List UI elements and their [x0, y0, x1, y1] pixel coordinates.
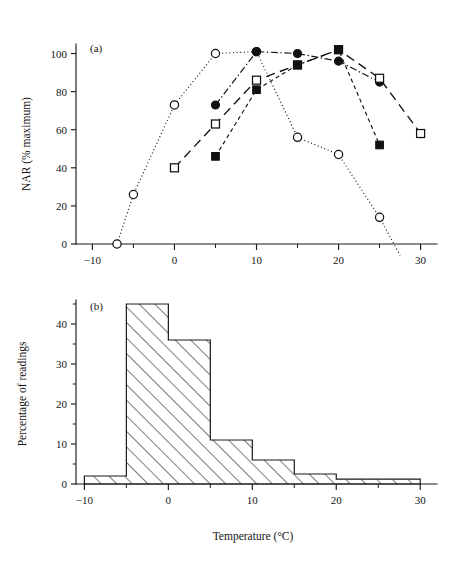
panel-a-x-tick-label: 30: [415, 254, 427, 266]
panel-a-label: (a): [90, 42, 103, 55]
panel-b-x-ticks: [84, 484, 420, 490]
panel-a-marker-filled-square: [335, 46, 343, 54]
panel-b-x-tick-label: 20: [331, 494, 343, 506]
panel-b-x-tick-label: 0: [166, 494, 172, 506]
panel-b-x-axis-title: Temperature (°C): [213, 530, 294, 543]
panel-b-histogram: 010203040 −100102030 Percentage of readi…: [0, 290, 453, 578]
panel-a-marker-open-square: [211, 120, 219, 128]
panel-a-y-tick-label: 40: [56, 162, 68, 174]
panel-b-y-axis-title: Percentage of readings: [16, 341, 29, 446]
panel-a-line-chart: 020406080100 −100102030 NAR (% maximum) …: [0, 0, 453, 290]
panel-a-y-tick-label: 60: [56, 124, 68, 136]
panel-a-marker-open-square: [253, 76, 261, 84]
panel-a-marker-filled-circle: [335, 57, 343, 65]
panel-b-bars: [84, 304, 420, 484]
panel-a-marker-open-circle: [334, 150, 342, 158]
panel-a-y-ticks: [71, 54, 76, 244]
panel-a-marker-open-circle: [293, 133, 301, 141]
panel-a-marker-filled-square: [294, 61, 302, 69]
panel-a-marker-filled-circle: [211, 101, 219, 109]
panel-b-y-tick-label: 20: [56, 398, 68, 410]
panel-a-marker-filled-square: [253, 86, 261, 94]
panel-a-series-line-filled-circle: [215, 52, 379, 105]
panel-a-marker-open-square: [417, 130, 425, 138]
panel-b-y-tick-label: 0: [62, 478, 68, 490]
panel-a-x-tick-label: 10: [251, 254, 263, 266]
panel-a-y-tick-labels: 020406080100: [51, 48, 68, 250]
panel-a-marker-filled-circle: [294, 50, 302, 58]
panel-b-label: (b): [90, 300, 103, 313]
panel-b-y-tick-label: 10: [56, 438, 68, 450]
panel-b-x-tick-label: −10: [76, 494, 94, 506]
figure-root: 020406080100 −100102030 NAR (% maximum) …: [0, 0, 453, 578]
panel-b-y-tick-label: 30: [56, 358, 68, 370]
panel-a-marker-open-circle: [211, 49, 219, 57]
panel-a-x-ticks: [92, 244, 420, 250]
panel-a-marker-filled-circle: [253, 48, 261, 56]
panel-a-x-tick-label: 20: [333, 254, 345, 266]
panel-a-marker-filled-square: [376, 141, 384, 149]
panel-a-marker-filled-square: [212, 153, 220, 161]
panel-a-y-tick-label: 0: [62, 238, 68, 250]
panel-a-y-axis-title: NAR (% maximum): [20, 97, 33, 191]
panel-b-x-tick-labels: −100102030: [76, 494, 426, 506]
panel-a-x-tick-label: −10: [84, 254, 102, 266]
panel-a-y-tick-label: 80: [56, 86, 68, 98]
panel-a-marker-open-circle: [129, 190, 137, 198]
panel-a-marker-open-circle: [170, 101, 178, 109]
panel-b-x-tick-label: 30: [415, 494, 427, 506]
panel-b-y-ticks: [71, 304, 76, 484]
panel-a-marker-open-circle: [113, 240, 121, 248]
panel-b-y-tick-labels: 010203040: [56, 318, 68, 490]
panel-a-marker-open-square: [376, 74, 384, 82]
panel-a-y-tick-label: 100: [51, 48, 68, 60]
panel-a-y-tick-label: 20: [56, 200, 68, 212]
panel-a-x-tick-labels: −100102030: [84, 254, 427, 266]
panel-b-x-tick-label: 10: [247, 494, 259, 506]
panel-a-marker-open-circle: [375, 213, 383, 221]
panel-a-x-tick-label: 0: [172, 254, 178, 266]
panel-a-marker-open-square: [170, 164, 178, 172]
panel-b-y-tick-label: 40: [56, 318, 68, 330]
